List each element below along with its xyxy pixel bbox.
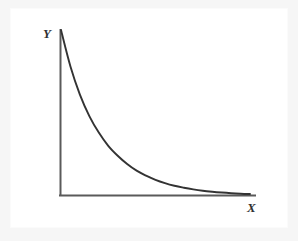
x-axis-label: X <box>247 201 256 214</box>
chart-screenshot: Y X <box>0 0 298 241</box>
y-axis-label: Y <box>43 27 51 40</box>
decay-curve <box>61 30 250 194</box>
